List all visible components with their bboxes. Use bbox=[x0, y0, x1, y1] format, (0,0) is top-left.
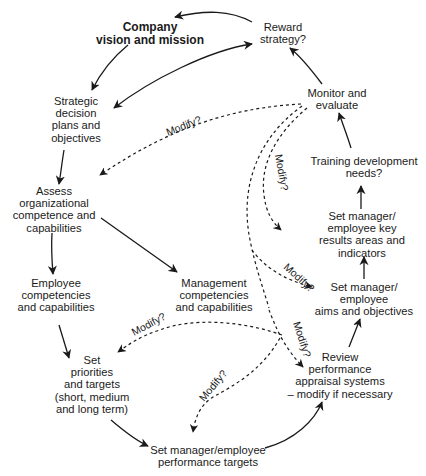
edge-strategic-to-assess bbox=[59, 150, 64, 184]
modify-label-priorities: Modify? bbox=[129, 310, 167, 338]
node-aims-objectives: Set manager/ employee aims and objective… bbox=[315, 281, 413, 318]
modify-label-kra: Modify? bbox=[273, 153, 291, 191]
node-assess-competence: Assess organizational competence and cap… bbox=[13, 185, 96, 234]
modify-label-perf: Modify? bbox=[196, 367, 229, 403]
edge-strategic-reward bbox=[114, 44, 252, 108]
edge-assess-to-mgmt bbox=[101, 218, 177, 272]
edge-monitor-to-reward bbox=[290, 48, 322, 84]
edge-assess-to-employee bbox=[52, 233, 53, 274]
node-set-priorities: Set priorities and targets (short, mediu… bbox=[55, 354, 130, 415]
edge-priorities-to-perf bbox=[111, 420, 148, 446]
edge-vision-to-strategic bbox=[92, 45, 128, 90]
node-reward-strategy: Reward strategy? bbox=[260, 21, 306, 45]
modify-label-assess: Modify? bbox=[164, 113, 203, 138]
dashed-monitor-to-assess bbox=[100, 104, 301, 175]
edge-perf-to-review bbox=[265, 402, 322, 448]
node-strategic-decision: Strategic decision plans and objectives bbox=[51, 95, 101, 144]
modify-label-aims: Modify? bbox=[282, 261, 317, 295]
node-review-appraisal: Review performance appraisal systems – m… bbox=[287, 351, 392, 400]
edge-training-to-monitor bbox=[339, 113, 351, 148]
edge-review-to-aims bbox=[349, 319, 360, 347]
node-key-results-areas: Set manager/ employee key results areas … bbox=[319, 210, 405, 259]
node-company-vision: Company vision and mission bbox=[96, 21, 204, 46]
node-performance-targets: Set manager/employee performance targets bbox=[150, 444, 266, 468]
node-monitor-evaluate: Monitor and evaluate bbox=[307, 87, 366, 111]
node-employee-competencies: Employee competencies and capabilities bbox=[17, 277, 94, 314]
node-management-competencies: Management competencies and capabilities bbox=[175, 277, 252, 314]
node-training-needs: Training development needs? bbox=[310, 155, 417, 179]
